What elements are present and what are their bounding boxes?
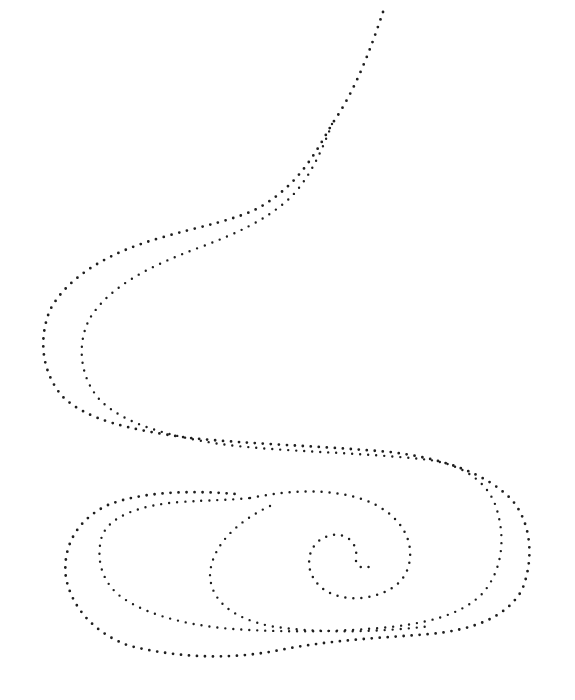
dotted-spiral-artwork: [0, 0, 575, 700]
background: [0, 0, 575, 700]
